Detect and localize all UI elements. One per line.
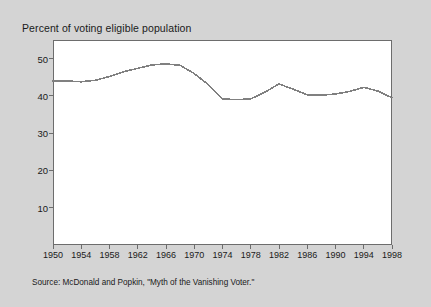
y-tick-label: 40	[22, 90, 48, 101]
plot-area	[53, 40, 392, 245]
y-tick-label: 10	[22, 202, 48, 213]
y-tick-label: 30	[22, 128, 48, 139]
y-tick-label: 20	[22, 165, 48, 176]
y-tick-label: 50	[22, 53, 48, 64]
chart-title: Percent of voting eligible population	[22, 22, 191, 34]
x-tick-label: 1998	[372, 250, 412, 260]
chart-figure: Percent of voting eligible population 10…	[0, 0, 431, 307]
source-note: Source: McDonald and Popkin, "Myth of th…	[32, 278, 254, 287]
